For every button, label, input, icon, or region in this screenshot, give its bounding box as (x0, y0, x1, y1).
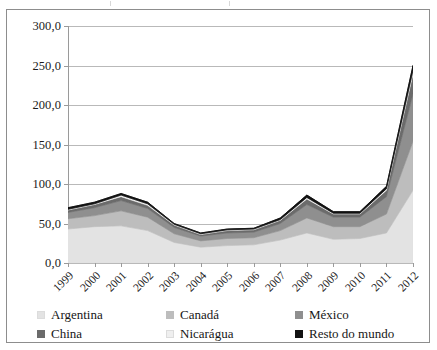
legend-swatch-icon (37, 311, 45, 319)
legend-item[interactable]: Resto do mundo (295, 324, 424, 343)
x-axis-label: 2007 (263, 269, 288, 294)
x-axis-label: 2002 (130, 269, 155, 294)
x-axis-label-text: 2003 (157, 269, 182, 294)
legend-item[interactable]: Argentina (37, 305, 166, 324)
x-axis-label-text: 1999 (51, 269, 76, 294)
chart-legend: ArgentinaCanadáMéxicoChinaNicaráguaResto… (7, 302, 431, 342)
legend-label: Nicarágua (180, 326, 233, 342)
x-axis-label-text: 2010 (343, 269, 368, 294)
x-tick-mark (148, 263, 149, 267)
x-axis-label-text: 2000 (77, 269, 102, 294)
chart-frame: 300,0250,0200,0150,0100,050,00,0 1999200… (6, 9, 430, 343)
x-tick-mark (360, 263, 361, 267)
x-axis-label: 2008 (290, 269, 315, 294)
x-axis-label: 2011 (369, 269, 393, 293)
legend-swatch-icon (295, 311, 303, 319)
y-axis-label: 300,0 (32, 19, 61, 34)
x-axis-label: 2006 (237, 269, 262, 294)
plot-area: 300,0250,0200,0150,0100,050,00,0 1999200… (68, 26, 413, 263)
y-axis-label: 50,0 (39, 216, 61, 231)
x-tick-mark (333, 263, 334, 267)
x-tick-mark (201, 263, 202, 267)
legend-label: Argentina (51, 307, 103, 323)
x-axis-label: 2010 (343, 269, 368, 294)
x-tick-mark (254, 263, 255, 267)
x-axis-label-text: 2007 (263, 269, 288, 294)
clipped-top-artifact (0, 0, 437, 8)
legend-label: Canadá (180, 307, 219, 323)
x-tick-mark (121, 263, 122, 267)
legend-label: China (51, 326, 82, 342)
x-axis-label: 2004 (183, 269, 208, 294)
x-tick-mark (68, 263, 69, 267)
y-axis-label: 100,0 (32, 177, 61, 192)
y-axis-label: 200,0 (32, 98, 61, 113)
y-axis-label: 0,0 (45, 256, 61, 271)
legend-row: ChinaNicaráguaResto do mundo (37, 324, 431, 343)
x-axis-label: 2000 (77, 269, 102, 294)
x-axis-label-text: 2011 (369, 269, 393, 293)
legend-row: ArgentinaCanadáMéxico (37, 305, 431, 324)
x-axis-label-text: 2008 (290, 269, 315, 294)
legend-swatch-icon (166, 330, 174, 338)
x-axis-label: 1999 (51, 269, 76, 294)
x-axis-label-text: 2002 (130, 269, 155, 294)
legend-swatch-icon (166, 311, 174, 319)
x-axis-label: 2003 (157, 269, 182, 294)
x-tick-mark (95, 263, 96, 267)
x-axis-label: 2001 (104, 269, 129, 294)
legend-item[interactable]: Nicarágua (166, 324, 295, 343)
legend-label: Resto do mundo (309, 326, 394, 342)
stacked-area-plot (68, 26, 413, 263)
plot-region: 300,0250,0200,0150,0100,050,00,0 1999200… (7, 10, 431, 300)
legend-swatch-icon (37, 330, 45, 338)
x-tick-mark (307, 263, 308, 267)
legend-item[interactable]: Canadá (166, 305, 295, 324)
x-tick-mark (413, 263, 414, 267)
x-tick-mark (386, 263, 387, 267)
legend-item[interactable]: China (37, 324, 166, 343)
x-tick-mark (174, 263, 175, 267)
x-axis-label-text: 2009 (316, 269, 341, 294)
x-axis-label-text: 2001 (104, 269, 129, 294)
x-axis-label-text: 2012 (396, 269, 421, 294)
x-axis-label: 2009 (316, 269, 341, 294)
x-tick-mark (280, 263, 281, 267)
x-axis-label-text: 2005 (210, 269, 235, 294)
x-axis-label: 2012 (396, 269, 421, 294)
x-axis-label-text: 2006 (237, 269, 262, 294)
y-axis-label: 250,0 (32, 58, 61, 73)
x-axis-label-text: 2004 (183, 269, 208, 294)
legend-swatch-icon (295, 330, 303, 338)
y-axis-label: 150,0 (32, 137, 61, 152)
x-tick-mark (227, 263, 228, 267)
legend-item[interactable]: México (295, 305, 424, 324)
x-axis-label: 2005 (210, 269, 235, 294)
legend-label: México (309, 307, 349, 323)
gridline (68, 263, 413, 264)
